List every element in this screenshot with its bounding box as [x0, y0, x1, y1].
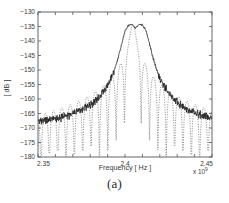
y-tick-label: −155: [20, 81, 35, 88]
y-tick-label: −175: [20, 139, 35, 146]
y-tick-label: −130: [20, 8, 35, 15]
x-axis-exponent: x 109: [193, 167, 208, 175]
x-tick-label: 2.45: [200, 160, 213, 167]
y-tick-label: −135: [20, 23, 35, 30]
y-tick-label: −140: [20, 37, 35, 44]
x-axis-label: Frequency [ Hz ]: [99, 163, 152, 172]
y-tick-label: −145: [20, 52, 35, 59]
y-tick-label: −180: [20, 153, 35, 160]
spectrum-plot: −130−135−140−145−150−155−160−165−170−175…: [0, 0, 229, 203]
figure-caption: (a): [0, 176, 229, 192]
y-axis-label: [ dB ]: [2, 80, 11, 97]
y-tick-label: −150: [20, 66, 35, 73]
y-tick-label: −170: [20, 124, 35, 131]
figure-panel: −130−135−140−145−150−155−160−165−170−175…: [0, 0, 229, 203]
y-tick-label: −165: [20, 110, 35, 117]
x-tick-label: 2.35: [37, 160, 50, 167]
y-tick-label: −160: [20, 95, 35, 102]
y-tick-labels: −130−135−140−145−150−155−160−165−170−175…: [20, 8, 35, 160]
